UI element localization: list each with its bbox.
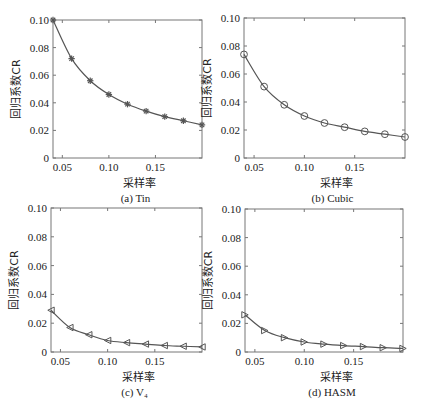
y-tick-label: 0.06 bbox=[221, 68, 241, 80]
y-axis-label: 回归系数CR bbox=[9, 59, 23, 119]
x-tick-label: 0.10 bbox=[98, 355, 118, 367]
x-axis-label: 采样率 bbox=[320, 176, 353, 190]
y-axis-label: 回归系数CR bbox=[7, 250, 21, 310]
star-marker bbox=[50, 17, 56, 23]
plot-frame bbox=[244, 18, 405, 158]
y-tick-label: 0.02 bbox=[222, 317, 241, 329]
y-tick-label: 0.02 bbox=[221, 124, 240, 136]
x-axis-label: 采样率 bbox=[320, 370, 353, 384]
x-tick-label: 0.05 bbox=[244, 161, 264, 173]
x-axis-label: 采样率 bbox=[123, 176, 156, 190]
y-tick-label: 0.04 bbox=[28, 288, 48, 300]
y-tick-label: 0.06 bbox=[222, 260, 242, 272]
panel-caption: (d) HASM bbox=[308, 386, 356, 399]
y-tick-label: 0.08 bbox=[30, 42, 50, 54]
y-tick-label: 0.08 bbox=[222, 232, 242, 244]
y-tick-label: 0.04 bbox=[30, 97, 50, 109]
star-marker bbox=[199, 122, 205, 128]
y-tick-label: 0.08 bbox=[28, 231, 48, 243]
x-tick-label: 0.15 bbox=[145, 355, 165, 367]
x-tick-label: 0.15 bbox=[146, 161, 166, 173]
series-line bbox=[245, 315, 403, 349]
panel-caption: (b) Cubic bbox=[312, 192, 354, 205]
y-tick-label: 0.10 bbox=[222, 203, 242, 215]
y-tick-label: 0 bbox=[236, 346, 242, 358]
y-tick-label: 0.02 bbox=[28, 317, 47, 329]
y-tick-label: 0.08 bbox=[221, 40, 241, 52]
x-tick-label: 0.05 bbox=[245, 355, 265, 367]
y-tick-label: 0 bbox=[235, 152, 241, 164]
y-tick-label: 0.10 bbox=[30, 14, 50, 26]
star-marker bbox=[106, 91, 112, 97]
panel-caption: (a) Tin bbox=[121, 192, 151, 205]
y-tick-label: 0.06 bbox=[28, 260, 48, 272]
x-tick-label: 0.10 bbox=[99, 161, 119, 173]
star-marker bbox=[124, 101, 130, 107]
x-tick-label: 0.10 bbox=[295, 355, 315, 367]
x-tick-label: 0.05 bbox=[53, 161, 73, 173]
star-marker bbox=[180, 118, 186, 124]
x-tick-label: 0.10 bbox=[295, 161, 315, 173]
x-axis-label: 采样率 bbox=[122, 370, 155, 384]
chart-panel-c: 00.020.040.060.080.100.050.100.15回归系数CR采… bbox=[7, 202, 205, 399]
y-tick-label: 0.04 bbox=[222, 289, 242, 301]
series-line bbox=[244, 54, 405, 137]
y-tick-label: 0.06 bbox=[30, 69, 50, 81]
figure-canvas: 00.020.040.060.080.100.050.100.15回归系数CR采… bbox=[0, 0, 422, 405]
panel-caption: (c) V₄ bbox=[121, 386, 148, 399]
y-tick-label: 0 bbox=[44, 152, 50, 164]
series-line bbox=[53, 20, 202, 125]
y-axis-label: 回归系数CR bbox=[200, 58, 214, 118]
star-marker bbox=[162, 113, 168, 119]
chart-panel-b: 00.020.040.060.080.100.050.100.15回归系数CR采… bbox=[200, 12, 408, 205]
chart-panel-d: 00.020.040.060.080.100.050.100.15回归系数CR采… bbox=[201, 203, 406, 399]
x-tick-label: 0.05 bbox=[51, 355, 71, 367]
x-tick-label: 0.15 bbox=[344, 355, 364, 367]
plot-frame bbox=[51, 208, 202, 352]
y-tick-label: 0.02 bbox=[30, 124, 49, 136]
star-marker bbox=[68, 55, 74, 61]
chart-panel-a: 00.020.040.060.080.100.050.100.15回归系数CR采… bbox=[9, 14, 205, 205]
y-tick-label: 0.04 bbox=[221, 96, 241, 108]
x-tick-label: 0.15 bbox=[345, 161, 365, 173]
y-tick-label: 0 bbox=[42, 346, 48, 358]
y-tick-label: 0.10 bbox=[221, 12, 241, 24]
star-marker bbox=[143, 108, 149, 114]
y-tick-label: 0.10 bbox=[28, 202, 48, 214]
plot-frame bbox=[53, 20, 202, 158]
y-axis-label: 回归系数CR bbox=[201, 250, 215, 310]
